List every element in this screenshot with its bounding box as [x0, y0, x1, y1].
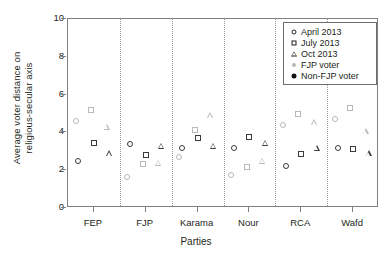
- x-tick-label-fjp: FJP: [136, 217, 153, 228]
- x-tick-mark: [145, 207, 146, 212]
- legend-item: Non-FJP voter: [288, 70, 372, 81]
- x-tick-mark: [352, 207, 353, 212]
- y-axis-title-line2: religious-secular axis: [23, 51, 35, 164]
- legend-label: April 2013: [299, 27, 342, 37]
- legend-label: FJP voter: [299, 60, 339, 70]
- y-tick-mark: [61, 131, 66, 132]
- x-tick-mark: [300, 207, 301, 212]
- x-axis-title: Parties: [0, 236, 392, 247]
- chart-figure: Average voter distance on religious-secu…: [0, 0, 392, 260]
- data-point: [91, 140, 97, 146]
- data-point: [366, 150, 372, 156]
- legend-marker-icon: [288, 70, 299, 81]
- data-point: [311, 119, 317, 125]
- data-point: [231, 145, 237, 151]
- legend-label: Non-FJP voter: [299, 71, 359, 81]
- x-tick-label-nour: Nour: [238, 217, 259, 228]
- data-point: [176, 154, 182, 160]
- data-point: [207, 112, 213, 118]
- data-point: [73, 118, 79, 124]
- y-axis-title: Average voter distance on religious-secu…: [0, 0, 46, 215]
- y-tick-mark: [61, 207, 66, 208]
- legend-label: Oct 2013: [299, 49, 338, 59]
- group-separator: [120, 19, 121, 206]
- y-tick-mark: [61, 56, 66, 57]
- legend-item: Oct 2013: [288, 48, 372, 59]
- legend-marker-icon: [288, 26, 299, 37]
- legend-item: FJP voter: [288, 59, 372, 70]
- data-point: [140, 161, 146, 167]
- data-point: [106, 150, 112, 156]
- data-point: [347, 105, 353, 111]
- x-tick-label-fep: FEP: [84, 217, 102, 228]
- x-tick-mark: [93, 207, 94, 212]
- y-tick-mark: [61, 94, 66, 95]
- y-tick-mark: [61, 18, 66, 19]
- data-point: [283, 163, 289, 169]
- data-point: [75, 158, 81, 164]
- legend-label: July 2013: [299, 38, 340, 48]
- data-point: [314, 145, 320, 151]
- legend-item: April 2013: [288, 26, 372, 37]
- data-point: [298, 151, 304, 157]
- data-point: [155, 160, 161, 166]
- data-point: [295, 111, 301, 117]
- y-axis-tick-labels: 0246810: [44, 0, 64, 215]
- data-point: [350, 146, 356, 152]
- group-separator: [224, 19, 225, 206]
- group-separator: [172, 19, 173, 206]
- data-point: [104, 124, 110, 130]
- data-point: [192, 127, 198, 133]
- chart-legend: April 2013July 2013Oct 2013FJP voterNon-…: [283, 22, 377, 85]
- data-point: [210, 143, 216, 149]
- x-tick-label-rca: RCA: [290, 217, 310, 228]
- y-axis-title-line1: Average voter distance on: [11, 51, 23, 164]
- data-point: [332, 116, 338, 122]
- legend-marker-icon: [288, 59, 299, 70]
- x-tick-label-wafd: Wafd: [341, 217, 363, 228]
- data-point: [280, 122, 286, 128]
- legend-marker-icon: [288, 37, 299, 48]
- data-point: [363, 128, 369, 134]
- y-tick-mark: [61, 169, 66, 170]
- x-tick-mark: [197, 207, 198, 212]
- x-tick-mark: [248, 207, 249, 212]
- data-point: [195, 135, 201, 141]
- data-point: [259, 158, 265, 164]
- data-point: [158, 143, 164, 149]
- data-point: [262, 140, 268, 146]
- data-point: [143, 152, 149, 158]
- data-point: [124, 174, 130, 180]
- data-point: [127, 141, 133, 147]
- data-point: [88, 107, 94, 113]
- x-tick-label-karama: Karama: [180, 217, 213, 228]
- data-point: [228, 172, 234, 178]
- data-point: [179, 145, 185, 151]
- group-separator: [275, 19, 276, 206]
- legend-item: July 2013: [288, 37, 372, 48]
- legend-marker-icon: [288, 48, 299, 59]
- data-point: [246, 134, 252, 140]
- data-point: [244, 164, 250, 170]
- data-point: [335, 145, 341, 151]
